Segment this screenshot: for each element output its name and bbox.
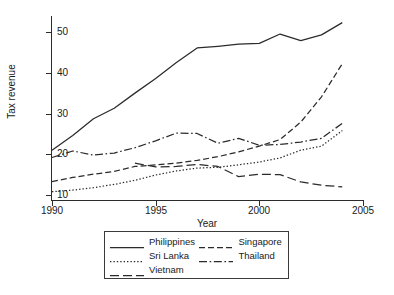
legend-swatch-solid [110,238,144,247]
legend-label: Vietnam [149,265,184,275]
legend-entry-sri-lanka[interactable]: Sri Lanka [110,249,199,263]
series-line-singapore [52,64,342,182]
tax-revenue-line-chart: 10203040501990199520002005 Tax revenue Y… [0,0,394,295]
legend-label: Thailand [238,251,274,261]
chart-legend: PhilippinesSingaporeSri LankaThailandVie… [104,231,289,279]
series-line-vietnam [135,163,342,187]
legend-label: Singapore [238,237,281,247]
series-line-thailand [52,123,342,157]
legend-entry-vietnam[interactable]: Vietnam [110,263,199,277]
legend-row: Vietnam [110,263,283,277]
series-line-philippines [52,23,342,151]
legend-label: Philippines [149,237,195,247]
legend-row: Sri LankaThailand [110,249,283,263]
legend-row: PhilippinesSingapore [110,235,283,249]
legend-entry-thailand[interactable]: Thailand [199,249,283,263]
legend-swatch-dashed [199,238,233,247]
legend-swatch-dashdot [199,252,233,261]
legend-entry-singapore[interactable]: Singapore [199,235,283,249]
legend-swatch-dotted [110,252,144,261]
series-line-sri-lanka [52,131,342,192]
legend-label: Sri Lanka [149,251,189,261]
legend-entry-philippines[interactable]: Philippines [110,235,199,249]
legend-swatch-longdash [110,266,144,275]
